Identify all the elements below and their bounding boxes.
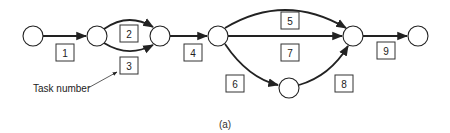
annotation-text: Task number bbox=[33, 83, 91, 94]
task-label-8: 8 bbox=[341, 79, 347, 90]
event-node-3 bbox=[150, 26, 170, 46]
event-node-7 bbox=[408, 26, 428, 46]
annotation-pointer bbox=[88, 72, 117, 88]
event-node-6 bbox=[279, 78, 299, 98]
task-label-2: 2 bbox=[126, 29, 132, 40]
edge-task-3 bbox=[104, 43, 153, 51]
edges bbox=[43, 10, 407, 85]
task-label-7: 7 bbox=[287, 48, 293, 59]
task-label-5: 5 bbox=[287, 16, 293, 27]
task-label-6: 6 bbox=[232, 79, 238, 90]
figure-caption: (a) bbox=[219, 119, 231, 130]
event-node-4 bbox=[208, 26, 228, 46]
task-number-annotation: Task number bbox=[33, 72, 117, 94]
event-node-1 bbox=[23, 26, 43, 46]
task-label-1: 1 bbox=[62, 48, 68, 59]
event-node-2 bbox=[87, 26, 107, 46]
task-label-9: 9 bbox=[383, 46, 389, 57]
network-diagram: 1 2 3 4 5 6 7 8 9 Task number (a) bbox=[0, 0, 450, 133]
event-node-5 bbox=[343, 26, 363, 46]
task-label-3: 3 bbox=[126, 61, 132, 72]
task-label-4: 4 bbox=[190, 48, 196, 59]
